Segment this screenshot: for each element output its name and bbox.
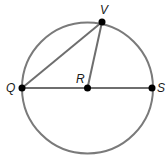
point-v (99, 19, 106, 26)
label-s: S (157, 81, 165, 95)
label-r: R (76, 72, 85, 86)
point-s (149, 85, 156, 92)
label-q: Q (6, 81, 15, 95)
point-r (84, 85, 91, 92)
label-v: V (100, 3, 109, 17)
circle-diagram: Q R S V (0, 0, 166, 164)
point-q (19, 85, 26, 92)
